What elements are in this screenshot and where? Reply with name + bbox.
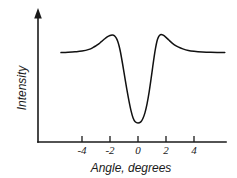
x-axis — [38, 136, 226, 142]
intensity-vs-angle-chart: -4 -2 0 2 4 Angle, degrees Intensity — [0, 0, 237, 178]
x-tick-label-4: 4 — [191, 144, 197, 156]
y-axis — [34, 8, 42, 142]
x-tick-label-minus4: -4 — [77, 144, 87, 156]
x-tick-label-2: 2 — [163, 144, 169, 156]
chart-svg: -4 -2 0 2 4 Angle, degrees Intensity — [0, 0, 237, 178]
y-axis-label: Intensity — [15, 65, 29, 111]
intensity-curve — [61, 34, 225, 123]
x-axis-label: Angle, degrees — [90, 161, 172, 175]
x-tick-label-minus2: -2 — [105, 144, 115, 156]
x-tick-label-zero: 0 — [135, 144, 141, 156]
arrow-up-icon — [34, 8, 42, 19]
x-tick-labels: -4 -2 0 2 4 — [77, 144, 197, 156]
